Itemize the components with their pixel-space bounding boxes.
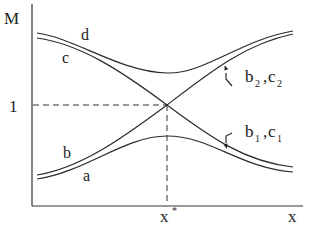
- x-axis-label: x: [288, 207, 297, 226]
- leader-b2-c2: [226, 73, 232, 86]
- svg-text:1: 1: [277, 133, 282, 144]
- curve-label-b: b: [63, 144, 71, 161]
- curve-d: [37, 31, 293, 73]
- svg-text:,: ,: [263, 122, 267, 141]
- svg-text:c: c: [268, 67, 276, 86]
- annotation-b2-c2: b 2 , c 2: [245, 67, 282, 89]
- svg-text:b: b: [245, 122, 254, 141]
- x-star-label: x: [160, 207, 169, 226]
- curve-label-d: d: [81, 26, 89, 43]
- svg-text:2: 2: [277, 78, 282, 89]
- svg-text:b: b: [245, 67, 254, 86]
- curve-label-c: c: [62, 49, 69, 66]
- svg-text:c: c: [268, 122, 276, 141]
- arrow-icon: [223, 65, 228, 71]
- annotation-b1-c1: b 1 , c 1: [245, 122, 282, 144]
- x-star-superscript: *: [172, 205, 177, 216]
- mode-crossing-diagram: M x 1 x * d c b a b 2 , c 2 b 1 , c 1: [0, 0, 310, 236]
- svg-text:2: 2: [255, 78, 260, 89]
- curve-c: [37, 38, 293, 167]
- svg-text:1: 1: [255, 133, 260, 144]
- leader-b1-c1: [226, 133, 232, 143]
- y-axis-label: M: [4, 9, 19, 28]
- svg-text:,: ,: [263, 67, 267, 86]
- y-tick-label: 1: [9, 97, 18, 116]
- curve-label-a: a: [83, 167, 90, 184]
